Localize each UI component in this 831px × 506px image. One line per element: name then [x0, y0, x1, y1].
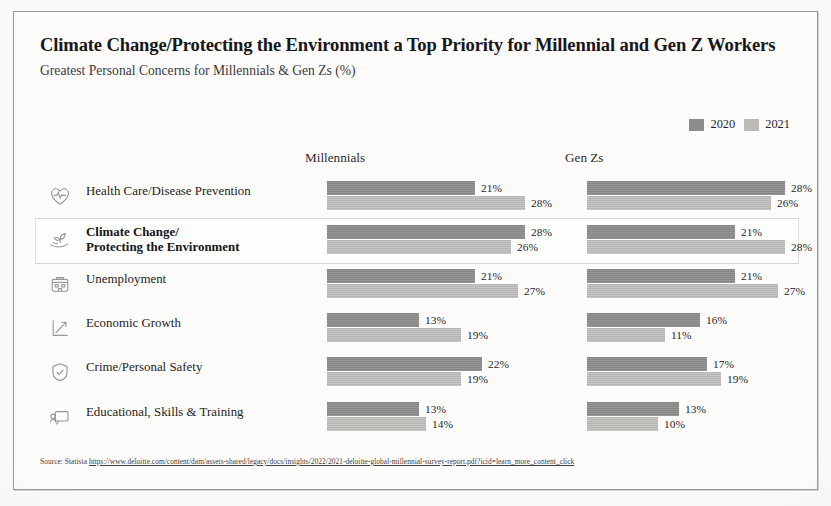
bar-2021	[327, 417, 426, 431]
bar-value-label: 19%	[467, 372, 488, 386]
bar-2021	[587, 372, 721, 386]
bar-value-label: 21%	[481, 181, 502, 195]
chart-row: Educational, Skills & Training13%14%13%1…	[36, 396, 798, 440]
bar-value-label: 13%	[685, 402, 706, 416]
bar-group-2020: 22%	[327, 357, 482, 371]
bar-2021	[587, 328, 665, 342]
bar-2020	[587, 225, 735, 239]
bar-group-2021: 27%	[587, 284, 778, 298]
bar-value-label: 13%	[425, 402, 446, 416]
bar-group-2021: 11%	[587, 328, 665, 342]
bar-group-2021: 19%	[327, 372, 461, 386]
legend-swatch-2021-icon	[744, 119, 759, 131]
growth-chart-icon	[47, 315, 73, 341]
legend-item-2020: 2020	[689, 117, 735, 132]
source-note: Source: Statista https://www.deloitte.co…	[40, 457, 574, 466]
bar-group-2020: 17%	[587, 357, 707, 371]
bar-2020	[587, 181, 785, 195]
bar-value-label: 14%	[432, 417, 453, 431]
bar-value-label: 21%	[481, 269, 502, 283]
bar-value-label: 27%	[524, 284, 545, 298]
bar-group-2020: 21%	[327, 181, 475, 195]
bar-group-2021: 26%	[587, 196, 771, 210]
bar-2021	[587, 240, 785, 254]
bar-2021	[327, 240, 511, 254]
bar-value-label: 26%	[777, 196, 798, 210]
office-building-icon	[47, 271, 73, 297]
bar-2020	[587, 313, 700, 327]
bar-2021	[327, 196, 525, 210]
page-subtitle: Greatest Personal Concerns for Millennia…	[40, 63, 640, 79]
bar-2020	[327, 269, 475, 283]
bar-value-label: 26%	[517, 240, 538, 254]
bar-2020	[587, 357, 707, 371]
bar-group-2020: 13%	[587, 402, 679, 416]
bar-2021	[587, 196, 771, 210]
bar-value-label: 13%	[425, 313, 446, 327]
bar-group-2020: 13%	[327, 402, 419, 416]
bar-value-label: 19%	[727, 372, 748, 386]
bar-group-2021: 10%	[587, 417, 658, 431]
bar-value-label: 28%	[531, 196, 552, 210]
bar-group-2020: 16%	[587, 313, 700, 327]
bar-2020	[327, 225, 525, 239]
bar-value-label: 28%	[791, 240, 812, 254]
legend-item-2021: 2021	[744, 117, 790, 132]
heart-pulse-icon	[47, 183, 73, 209]
bar-value-label: 11%	[671, 328, 691, 342]
chart-page: Climate Change/Protecting the Environmen…	[0, 0, 831, 506]
source-link[interactable]: https://www.deloitte.com/content/dam/ass…	[89, 457, 574, 466]
legend-label-2021: 2021	[765, 117, 790, 132]
bar-value-label: 21%	[741, 225, 762, 239]
chart-row: Climate Change/Protecting the Environmen…	[35, 218, 799, 264]
chart-row: Crime/Personal Safety22%19%17%19%	[36, 351, 798, 395]
row-label: Educational, Skills & Training	[86, 405, 291, 420]
chart-card: Climate Change/Protecting the Environmen…	[13, 11, 818, 490]
chart-row: Unemployment21%27%21%27%	[36, 263, 798, 307]
row-label: Unemployment	[86, 272, 291, 287]
column-header-gen-zs: Gen Zs	[565, 150, 603, 166]
bar-group-2020: 21%	[587, 269, 735, 283]
row-label: Climate Change/Protecting the Environmen…	[86, 225, 291, 254]
bar-group-2021: 26%	[327, 240, 511, 254]
bar-group-2021: 28%	[587, 240, 785, 254]
bar-group-2021: 28%	[327, 196, 525, 210]
source-prefix: Source: Statista	[40, 457, 89, 466]
bar-group-2020: 13%	[327, 313, 419, 327]
bar-2020	[587, 402, 679, 416]
bar-group-2021: 14%	[327, 417, 426, 431]
bar-2021	[327, 284, 518, 298]
bar-2021	[587, 284, 778, 298]
row-label: Crime/Personal Safety	[86, 360, 291, 375]
hand-plant-icon	[47, 227, 73, 253]
legend: 2020 2021	[689, 117, 790, 132]
legend-swatch-2020-icon	[689, 119, 704, 131]
shield-check-icon	[47, 359, 73, 385]
bar-group-2020: 21%	[327, 269, 475, 283]
bar-group-2021: 19%	[587, 372, 721, 386]
presentation-board-icon	[47, 404, 73, 430]
bar-value-label: 28%	[791, 181, 812, 195]
bar-2020	[327, 402, 419, 416]
bar-group-2021: 27%	[327, 284, 518, 298]
chart-row: Economic Growth13%19%16%11%	[36, 307, 798, 351]
bar-group-2020: 21%	[587, 225, 735, 239]
column-header-millennials: Millennials	[305, 150, 365, 166]
bar-value-label: 17%	[713, 357, 734, 371]
bar-2020	[327, 313, 419, 327]
bar-group-2021: 19%	[327, 328, 461, 342]
bar-2020	[587, 269, 735, 283]
row-label: Health Care/Disease Prevention	[86, 184, 291, 199]
chart-row: Health Care/Disease Prevention21%28%28%2…	[36, 175, 798, 219]
legend-label-2020: 2020	[710, 117, 735, 132]
bar-2021	[327, 372, 461, 386]
bar-value-label: 22%	[488, 357, 509, 371]
bar-value-label: 19%	[467, 328, 488, 342]
page-title: Climate Change/Protecting the Environmen…	[40, 34, 790, 56]
bar-2021	[327, 328, 461, 342]
row-label: Economic Growth	[86, 316, 291, 331]
bar-value-label: 21%	[741, 269, 762, 283]
bar-2020	[327, 181, 475, 195]
bar-group-2020: 28%	[587, 181, 785, 195]
bar-2021	[587, 417, 658, 431]
